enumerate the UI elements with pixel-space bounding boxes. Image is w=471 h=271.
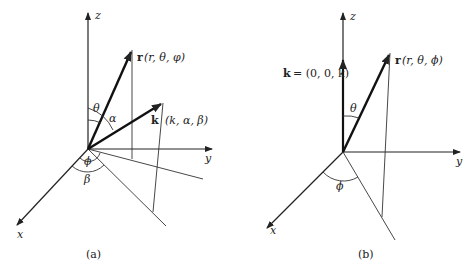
k-coords-label: (k, α, β): [165, 114, 208, 127]
alpha-label: α: [109, 112, 117, 125]
z-axis-label: z: [94, 9, 101, 22]
x-axis: [17, 149, 88, 225]
panel-a: z y x r (r, θ, φ) k (k, α, β) θ α ϕ β (a…: [17, 9, 212, 261]
panel-a-caption: (a): [86, 248, 101, 261]
r-vertical-drop: [382, 53, 390, 217]
panel-b-caption: (b): [358, 248, 374, 261]
theta-label: θ: [350, 102, 357, 115]
k-vector-label: k: [151, 114, 159, 127]
k-projection-line: [88, 149, 166, 226]
theta-label: θ: [93, 102, 100, 115]
z-axis-label: z: [349, 10, 356, 23]
x-axis: [267, 152, 343, 228]
r-projection-line: [343, 152, 395, 240]
phi-label: ϕ: [336, 180, 344, 193]
spherical-coordinates-diagram: z y x r (r, θ, φ) k (k, α, β) θ α ϕ β (a…: [0, 0, 471, 271]
panel-b: z y x r (r, θ, ϕ) k = (0, 0, k) θ ϕ (b): [267, 10, 463, 261]
phi-label: ϕ: [84, 155, 92, 168]
r-projection-line: [88, 149, 203, 179]
x-axis-label: x: [270, 224, 277, 237]
y-axis-label: y: [204, 152, 212, 165]
r-vector-label: r: [395, 54, 401, 67]
r-coords-label: (r, θ, ϕ): [402, 54, 443, 67]
x-axis-label: x: [17, 228, 24, 241]
k-vector-label: k: [283, 67, 291, 80]
y-axis-label: y: [455, 155, 463, 168]
beta-label: β: [83, 173, 90, 186]
theta-arc: [343, 116, 359, 118]
r-coords-label: (r, θ, φ): [144, 51, 185, 64]
r-vector-label: r: [137, 51, 143, 64]
k-equals-label: = (0, 0, k): [293, 67, 349, 80]
